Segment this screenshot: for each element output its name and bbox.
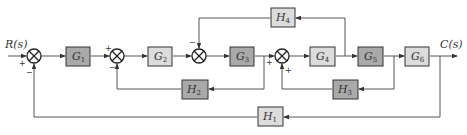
block-g4: G4 xyxy=(310,47,335,66)
sum2-minus-sign: − xyxy=(109,63,116,72)
block-g3: G3 xyxy=(230,47,254,66)
sum4-plus-sign-bottom: + xyxy=(285,66,292,75)
block-diagram: + − + − − + + G1 G2 G3 G4 G5 G6 H1 H2 H3 xyxy=(0,0,467,135)
sum4-plus-sign-left: + xyxy=(266,58,273,67)
sum1-minus-sign: − xyxy=(26,68,33,77)
summing-junction-3 xyxy=(192,49,206,63)
block-g6: G6 xyxy=(405,47,429,66)
block-h2: H2 xyxy=(182,80,208,99)
sum2-plus-sign: + xyxy=(105,44,112,53)
sum1-plus-sign: + xyxy=(19,59,26,68)
block-g5: G5 xyxy=(358,47,383,66)
feedback-wires xyxy=(34,18,440,117)
output-label: C(s) xyxy=(440,38,463,51)
block-h3: H3 xyxy=(333,80,358,99)
block-h1: H1 xyxy=(258,107,283,126)
summing-junction-4 xyxy=(275,49,289,63)
input-label: R(s) xyxy=(4,38,28,51)
summing-junction-2 xyxy=(110,49,124,63)
block-g2: G2 xyxy=(148,47,172,66)
sum3-minus-sign: − xyxy=(189,38,196,47)
block-g1: G1 xyxy=(66,47,90,66)
block-h4: H4 xyxy=(271,8,295,27)
summing-junction-1 xyxy=(27,49,41,63)
